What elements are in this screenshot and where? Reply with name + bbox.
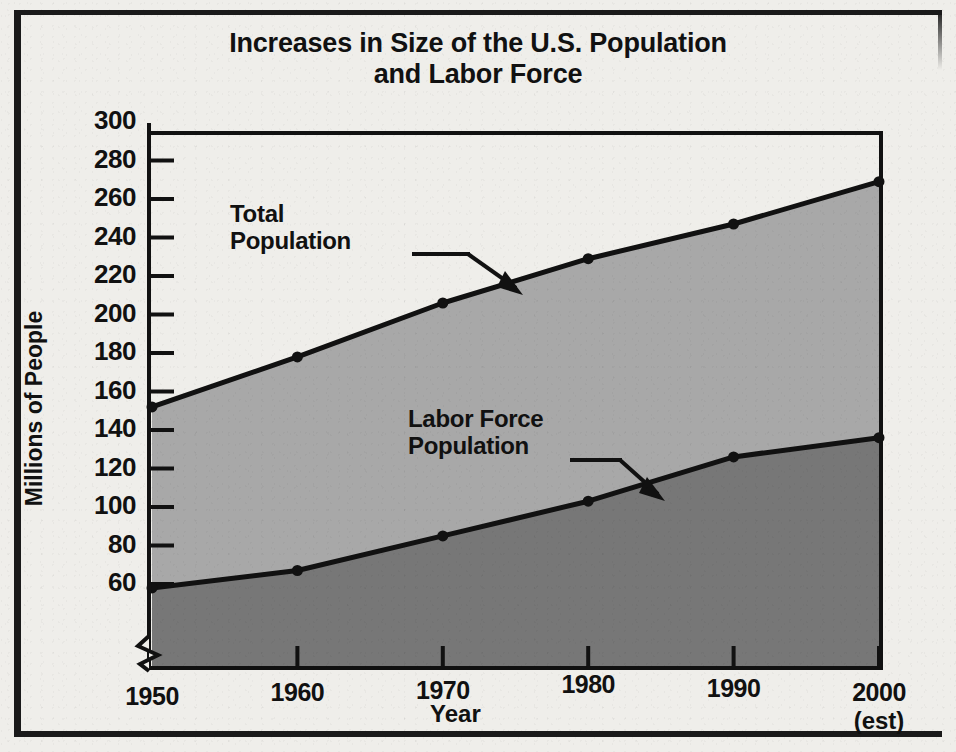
chart-figure: Increases in Size of the U.S. Population…	[0, 0, 956, 752]
series-label-total-population-line-1: Total	[230, 200, 351, 227]
x-axis-tick-label: 1970	[388, 676, 498, 705]
data-point-labor-force-population	[874, 432, 885, 443]
y-axis-title: Millions of People	[21, 279, 48, 539]
y-axis-tick-label: 120	[50, 452, 136, 483]
y-axis-tick-label: 80	[50, 529, 136, 560]
data-point-total-population	[437, 298, 448, 309]
y-axis-tick-label: 180	[50, 336, 136, 367]
y-axis-tick-label: 240	[50, 221, 136, 252]
annotation-arrow-total-population	[412, 254, 523, 295]
data-point-labor-force-population	[147, 582, 158, 593]
data-point-total-population	[874, 176, 885, 187]
x-axis-tick-label: 1950	[97, 682, 207, 711]
data-point-labor-force-population	[437, 530, 448, 541]
data-point-total-population	[147, 401, 158, 412]
data-point-labor-force-population	[728, 451, 739, 462]
y-axis-tick-label: 280	[50, 144, 136, 175]
y-axis-tick-label: 160	[50, 375, 136, 406]
data-point-total-population	[728, 219, 739, 230]
data-point-labor-force-population	[583, 496, 594, 507]
y-axis-tick-label: 260	[50, 182, 136, 213]
y-axis-tick-label: 300	[50, 105, 136, 136]
y-axis-tick-label: 200	[50, 298, 136, 329]
series-label-total-population: Total Population	[230, 200, 351, 254]
series-label-labor-force-population-line-1: Labor Force	[408, 405, 543, 432]
plot-area: Millions of People Year 6080100120140160…	[0, 0, 956, 752]
plot-svg	[0, 0, 956, 752]
series-label-labor-force-population-line-2: Population	[408, 432, 543, 459]
x-axis-tick-sublabel: (est)	[824, 707, 934, 735]
y-axis-tick-label: 100	[50, 490, 136, 521]
series-label-labor-force-population: Labor Force Population	[408, 405, 543, 459]
data-point-total-population	[583, 253, 594, 264]
series-label-total-population-line-2: Population	[230, 227, 351, 254]
x-axis-tick-label: 1960	[242, 678, 352, 707]
x-axis-tick-label: 1980	[533, 670, 643, 699]
data-point-labor-force-population	[292, 565, 303, 576]
x-axis-tick-label: 1990	[679, 674, 789, 703]
data-point-total-population	[292, 351, 303, 362]
y-axis-tick-label: 220	[50, 259, 136, 290]
x-axis-tick-label: 2000	[824, 678, 934, 707]
y-axis-tick-label: 60	[50, 567, 136, 598]
y-axis-tick-label: 140	[50, 413, 136, 444]
